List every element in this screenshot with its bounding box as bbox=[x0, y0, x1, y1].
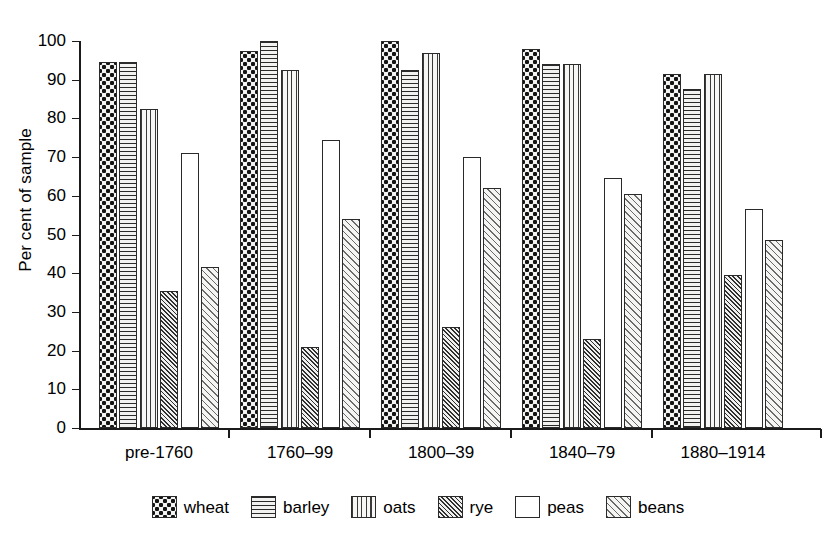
bar-peas-3 bbox=[604, 178, 622, 428]
y-tick-label-60: 60 bbox=[30, 187, 66, 204]
legend-item-peas[interactable]: peas bbox=[515, 496, 584, 518]
y-tick-mark-80 bbox=[72, 118, 79, 119]
legend-item-beans[interactable]: beans bbox=[606, 496, 684, 518]
bar-barley-2 bbox=[401, 70, 419, 428]
y-tick-label-80: 80 bbox=[30, 109, 66, 126]
bar-beans-0 bbox=[201, 267, 219, 428]
bar-rye-1 bbox=[301, 347, 319, 428]
bar-group bbox=[663, 41, 785, 428]
bar-wheat-1 bbox=[240, 51, 258, 428]
bar-wheat-2 bbox=[381, 41, 399, 428]
bar-peas-1 bbox=[322, 140, 340, 428]
legend-label-barley: barley bbox=[283, 499, 329, 516]
bar-group bbox=[240, 41, 362, 428]
y-tick-mark-0 bbox=[72, 428, 79, 429]
y-tick-label-0: 0 bbox=[30, 419, 66, 436]
bar-wheat-4 bbox=[663, 74, 681, 428]
bar-beans-4 bbox=[765, 240, 783, 428]
y-tick-label-100: 100 bbox=[30, 32, 66, 49]
bar-group bbox=[522, 41, 644, 428]
x-axis-end-tick bbox=[820, 429, 822, 438]
x-axis-group-separator-2 bbox=[369, 429, 371, 438]
bar-group bbox=[99, 41, 221, 428]
bar-rye-2 bbox=[442, 327, 460, 428]
legend-label-beans: beans bbox=[638, 499, 684, 516]
y-tick-mark-40 bbox=[72, 273, 79, 274]
bar-peas-0 bbox=[181, 153, 199, 428]
legend-swatch-rye-icon bbox=[438, 496, 463, 518]
bar-wheat-0 bbox=[99, 62, 117, 428]
legend-swatch-wheat-icon bbox=[152, 496, 177, 518]
y-tick-mark-70 bbox=[72, 157, 79, 158]
y-tick-mark-30 bbox=[72, 312, 79, 313]
legend-label-peas: peas bbox=[547, 499, 584, 516]
bar-barley-4 bbox=[683, 89, 701, 428]
bar-chart: Per cent of sample 100908070605040302010… bbox=[0, 0, 836, 551]
bar-beans-2 bbox=[483, 188, 501, 428]
legend-item-wheat[interactable]: wheat bbox=[152, 496, 229, 518]
bar-beans-1 bbox=[342, 219, 360, 428]
bar-barley-0 bbox=[119, 62, 137, 428]
x-axis-label-4: 1880–1914 bbox=[623, 443, 823, 463]
x-axis-group-separator-1 bbox=[228, 429, 230, 438]
legend-swatch-barley-icon bbox=[251, 496, 276, 518]
bar-beans-3 bbox=[624, 194, 642, 428]
y-tick-mark-100 bbox=[72, 41, 79, 42]
bar-peas-4 bbox=[745, 209, 763, 428]
bar-rye-3 bbox=[583, 339, 601, 428]
legend-label-wheat: wheat bbox=[184, 499, 229, 516]
bar-wheat-3 bbox=[522, 49, 540, 428]
y-tick-mark-20 bbox=[72, 351, 79, 352]
y-axis-tick-labels: 1009080706050403020100 bbox=[22, 0, 66, 551]
y-tick-mark-10 bbox=[72, 389, 79, 390]
bar-oats-3 bbox=[563, 64, 581, 428]
x-axis-group-separator-4 bbox=[651, 429, 653, 438]
y-tick-label-50: 50 bbox=[30, 226, 66, 243]
bar-barley-1 bbox=[260, 41, 278, 428]
bar-group bbox=[381, 41, 503, 428]
legend-swatch-beans-icon bbox=[606, 496, 631, 518]
chart-legend: wheatbarleyoatsryepeasbeans bbox=[0, 496, 836, 518]
bar-barley-3 bbox=[542, 64, 560, 428]
y-tick-label-30: 30 bbox=[30, 303, 66, 320]
y-tick-label-70: 70 bbox=[30, 148, 66, 165]
legend-label-oats: oats bbox=[383, 499, 415, 516]
legend-label-rye: rye bbox=[470, 499, 494, 516]
legend-swatch-oats-icon bbox=[351, 496, 376, 518]
legend-item-rye[interactable]: rye bbox=[438, 496, 494, 518]
bar-rye-0 bbox=[160, 291, 178, 428]
bar-peas-2 bbox=[463, 157, 481, 428]
bar-oats-2 bbox=[422, 53, 440, 428]
x-axis-group-separator-3 bbox=[510, 429, 512, 438]
y-tick-label-20: 20 bbox=[30, 342, 66, 359]
bar-oats-0 bbox=[140, 109, 158, 428]
bar-oats-1 bbox=[281, 70, 299, 428]
x-axis-line bbox=[79, 428, 821, 430]
bar-oats-4 bbox=[704, 74, 722, 428]
legend-item-barley[interactable]: barley bbox=[251, 496, 329, 518]
legend-swatch-peas-icon bbox=[515, 496, 540, 518]
y-tick-mark-60 bbox=[72, 196, 79, 197]
bar-rye-4 bbox=[724, 275, 742, 428]
y-tick-label-10: 10 bbox=[30, 380, 66, 397]
y-tick-label-90: 90 bbox=[30, 71, 66, 88]
y-tick-mark-50 bbox=[72, 235, 79, 236]
y-tick-label-40: 40 bbox=[30, 264, 66, 281]
legend-item-oats[interactable]: oats bbox=[351, 496, 415, 518]
y-tick-mark-90 bbox=[72, 80, 79, 81]
plot-area bbox=[79, 41, 821, 428]
